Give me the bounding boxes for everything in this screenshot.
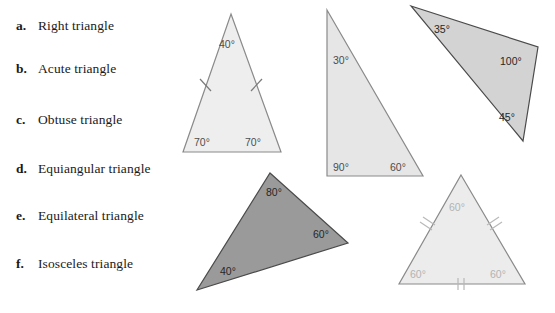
isosceles-triangle: 40° 70° 70° (183, 14, 281, 152)
choice-item-f[interactable]: f. Isosceles triangle (16, 256, 186, 278)
obtuse-angle-left: 35° (434, 23, 450, 35)
isosceles-triangle-shape (183, 14, 281, 152)
acute-triangle-shape (197, 173, 348, 290)
right-angle-bottom-left: 90° (333, 161, 349, 173)
choice-label-e: Equilateral triangle (38, 208, 144, 224)
equilateral-angle-base-left: 60° (410, 268, 426, 280)
obtuse-triangle-shape (411, 6, 538, 141)
choice-label-c: Obtuse triangle (38, 112, 122, 128)
choice-letter-e: e. (16, 208, 38, 224)
isosceles-angle-base-left: 70° (194, 136, 210, 148)
equilateral-triangle: 60° 60° 60° (399, 175, 525, 290)
equilateral-tick-right-1 (490, 222, 502, 230)
choice-label-f: Isosceles triangle (38, 256, 133, 272)
right-angle-bottom-right: 60° (390, 161, 406, 173)
answer-choice-list: a. Right triangle b. Acute triangle c. O… (0, 0, 180, 313)
worksheet-page: a. Right triangle b. Acute triangle c. O… (0, 0, 555, 313)
choice-label-d: Equiangular triangle (38, 161, 151, 177)
choice-label-b: Acute triangle (38, 61, 116, 77)
equilateral-triangle-shape (399, 175, 525, 284)
choice-letter-a: a. (16, 18, 38, 34)
choice-item-d[interactable]: d. Equiangular triangle (16, 161, 186, 183)
right-triangle-shape (327, 10, 423, 176)
acute-angle-top: 80° (266, 186, 282, 198)
choice-letter-c: c. (16, 112, 38, 128)
choice-letter-f: f. (16, 256, 38, 272)
equilateral-tick-left-1 (420, 222, 432, 230)
acute-triangle: 80° 60° 40° (197, 173, 348, 290)
right-angle-top: 30° (333, 54, 349, 66)
isosceles-tick-right (251, 79, 262, 91)
choice-item-b[interactable]: b. Acute triangle (16, 61, 186, 83)
acute-angle-right: 60° (313, 228, 329, 240)
obtuse-triangle: 35° 100° 45° (411, 6, 538, 141)
isosceles-angle-base-right: 70° (245, 136, 261, 148)
equilateral-angle-base-right: 60° (490, 268, 506, 280)
obtuse-angle-bottom: 45° (499, 111, 515, 123)
equilateral-tick-left-2 (423, 217, 435, 225)
choice-item-a[interactable]: a. Right triangle (16, 18, 186, 40)
right-triangle: 30° 90° 60° (327, 10, 423, 176)
equilateral-angle-apex: 60° (449, 201, 465, 213)
choice-item-c[interactable]: c. Obtuse triangle (16, 112, 186, 134)
choice-letter-d: d. (16, 161, 38, 177)
choice-item-e[interactable]: e. Equilateral triangle (16, 208, 186, 230)
acute-angle-bottom-left: 40° (220, 265, 236, 277)
choice-label-a: Right triangle (38, 18, 114, 34)
obtuse-angle-right: 100° (500, 55, 522, 67)
isosceles-angle-apex: 40° (219, 38, 235, 50)
isosceles-tick-left (200, 79, 211, 91)
choice-letter-b: b. (16, 61, 38, 77)
equilateral-tick-right-2 (487, 217, 499, 225)
